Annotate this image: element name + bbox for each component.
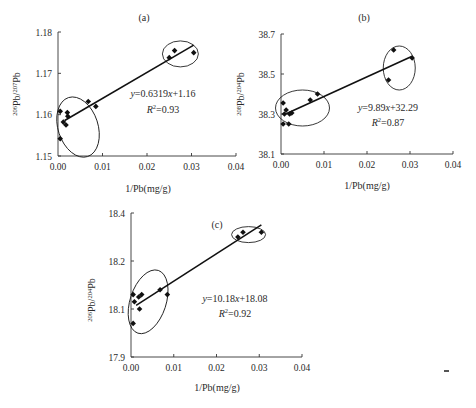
y-axis-title-b: 208Pb/204Pb [235, 72, 246, 115]
chart-b: (b) 0.000.010.020.030.0438.138.338.538.7… [235, 12, 462, 192]
x-tick-label: 0.02 [359, 160, 376, 170]
panel-label-a: (a) [138, 12, 149, 24]
x-tick-label: 0.04 [228, 162, 245, 172]
y-tick-label: 1.17 [35, 69, 52, 79]
chart-c: (c) 0.000.010.020.030.0417.918.118.218.4… [86, 209, 311, 395]
y-tick-label: 38.3 [258, 110, 275, 120]
x-tick-label: 0.04 [294, 363, 311, 373]
equation-a: y=0.6319x+1.16 [129, 88, 195, 99]
x-tick-label: 0.01 [94, 162, 111, 172]
equation-b: y=9.89x+32.29 [357, 102, 418, 113]
data-point [137, 306, 143, 312]
data-point [286, 121, 292, 127]
x-axis-title-a: 1/Pb(mg/g) [125, 183, 171, 195]
r-squared-b: R2=0.87 [371, 116, 405, 128]
chart-a: (a) 0.000.010.020.030.041.151.161.171.18… [11, 12, 245, 195]
data-point [191, 50, 197, 56]
data-point [240, 229, 246, 235]
x-axis-title-b: 1/Pb(mg/g) [344, 180, 390, 192]
figure: (a) 0.000.010.020.030.041.151.161.171.18… [0, 0, 476, 408]
y-tick-label: 18.2 [108, 257, 125, 267]
y-tick-label: 1.15 [35, 152, 52, 162]
y-tick-label: 1.18 [35, 28, 52, 38]
cluster-ellipse [121, 265, 176, 339]
plot-area-a: 0.000.010.020.030.041.151.161.171.18 [35, 28, 244, 173]
x-tick-label: 0.00 [273, 160, 290, 170]
y-tick-label: 17.9 [108, 353, 125, 363]
x-tick-label: 0.03 [183, 162, 200, 172]
plot-area-b: 0.000.010.020.030.0438.138.338.538.7 [258, 30, 461, 171]
r-squared-c: R2=0.92 [218, 307, 252, 319]
x-tick-label: 0.02 [139, 162, 156, 172]
x-tick-label: 0.00 [123, 363, 140, 373]
r-squared-a: R2=0.93 [146, 103, 180, 115]
data-point [166, 55, 172, 61]
y-tick-label: 38.5 [258, 70, 275, 80]
y-tick-label: 38.7 [258, 30, 275, 40]
data-point [165, 292, 171, 298]
y-tick-label: 1.16 [35, 110, 52, 120]
panel-label-b: (b) [358, 12, 370, 24]
x-tick-label: 0.04 [445, 160, 462, 170]
x-tick-label: 0.00 [50, 162, 67, 172]
y-axis-title-c: 206Pb/204Pb [86, 278, 97, 321]
data-point [132, 299, 138, 305]
y-tick-label: 38.1 [258, 150, 275, 160]
x-tick-label: 0.02 [208, 363, 225, 373]
y-tick-label: 18.1 [108, 305, 125, 315]
data-point [172, 48, 178, 54]
x-axis-title-c: 1/Pb(mg/g) [194, 382, 240, 394]
x-tick-label: 0.03 [402, 160, 419, 170]
x-tick-label: 0.03 [251, 363, 268, 373]
stray-mark [444, 370, 449, 372]
y-tick-label: 18.4 [108, 209, 125, 219]
panel-label-c: (c) [211, 219, 222, 231]
x-tick-label: 0.01 [316, 160, 333, 170]
cluster-ellipse [276, 90, 330, 126]
y-axis-title-a: 206Pb/207Pb [11, 72, 22, 115]
data-point [93, 104, 99, 110]
x-tick-label: 0.01 [165, 363, 182, 373]
plot-area-c: 0.000.010.020.030.0417.918.118.218.4 [108, 209, 310, 374]
equation-c: y=10.18x+18.08 [201, 293, 267, 304]
